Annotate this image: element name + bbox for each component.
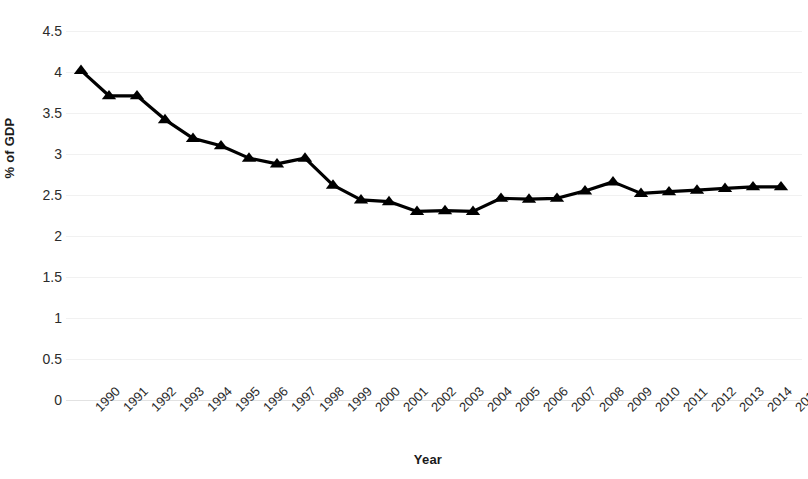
y-tick-label: 2.5 <box>16 187 62 203</box>
x-tick-label: 1991 <box>120 404 131 415</box>
series-line <box>81 70 781 211</box>
x-tick-label: 2012 <box>708 404 719 415</box>
y-tick-label: 0 <box>16 392 62 408</box>
y-axis-tick-labels: 00.511.522.533.544.5 <box>0 0 62 479</box>
x-axis-title-text: Year <box>414 452 442 467</box>
x-axis-title: Year <box>0 452 808 467</box>
x-tick-label: 2002 <box>428 404 439 415</box>
x-tick-label: 1999 <box>344 404 355 415</box>
x-tick-label: 2011 <box>680 404 691 415</box>
x-tick-label: 2000 <box>372 404 383 415</box>
y-tick-label: 1.5 <box>16 269 62 285</box>
y-tick-label: 3 <box>16 146 62 162</box>
x-tick-label: 2003 <box>456 404 467 415</box>
x-tick-label: 1995 <box>232 404 243 415</box>
x-tick-label: 1993 <box>176 404 187 415</box>
chart-figure: % of GDP 00.511.522.533.544.5 1990199119… <box>0 0 808 479</box>
x-tick-label: 1997 <box>288 404 299 415</box>
data-point-marker <box>298 152 312 161</box>
data-series-line <box>66 0 802 410</box>
x-tick-label: 1990 <box>92 404 103 415</box>
x-tick-label: 1998 <box>316 404 327 415</box>
y-tick-label: 4.5 <box>16 23 62 39</box>
y-tick-label: 4 <box>16 64 62 80</box>
y-tick-label: 3.5 <box>16 105 62 121</box>
x-tick-label: 2013 <box>736 404 747 415</box>
x-tick-label: 2009 <box>624 404 635 415</box>
x-tick-label: 1994 <box>204 404 215 415</box>
y-tick-label: 2 <box>16 228 62 244</box>
x-tick-label: 2001 <box>400 404 411 415</box>
x-tick-label: 2004 <box>484 404 495 415</box>
x-tick-label: 1996 <box>260 404 271 415</box>
x-tick-label: 2014 <box>764 404 775 415</box>
x-tick-label: 2007 <box>568 404 579 415</box>
x-tick-label: 1992 <box>148 404 159 415</box>
data-point-marker <box>74 65 88 74</box>
x-tick-label: 2008 <box>596 404 607 415</box>
y-tick-label: 0.5 <box>16 351 62 367</box>
data-point-marker <box>606 176 620 185</box>
y-tick-label: 1 <box>16 310 62 326</box>
x-tick-label: 2006 <box>540 404 551 415</box>
x-tick-label: 2005 <box>512 404 523 415</box>
x-tick-label: 2015 <box>792 404 803 415</box>
plot-area <box>66 0 802 410</box>
x-tick-label: 2010 <box>652 404 663 415</box>
